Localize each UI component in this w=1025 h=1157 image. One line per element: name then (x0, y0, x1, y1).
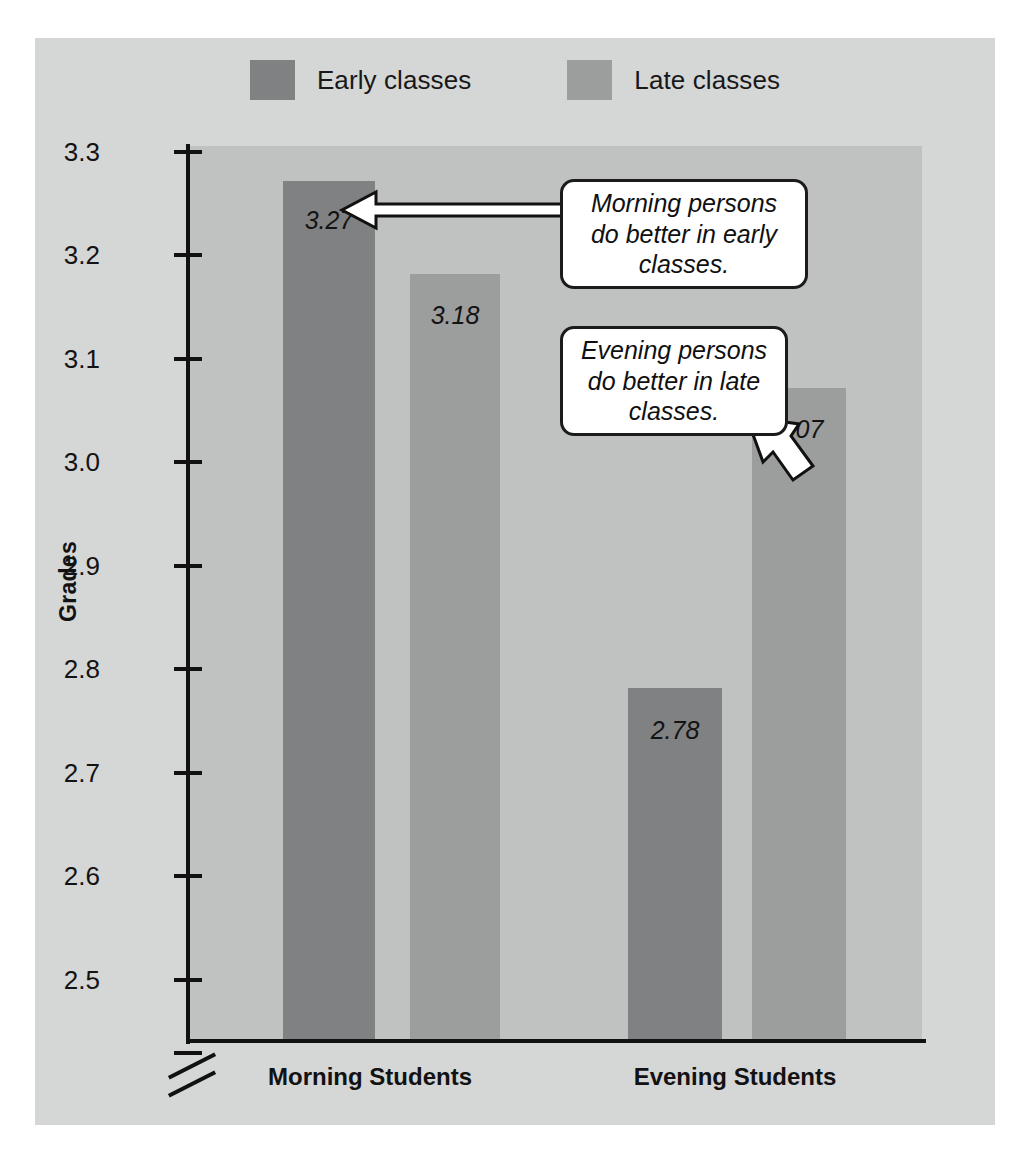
y-tick-label-2-5: 2.5 (64, 965, 100, 996)
bar-value-morning-early: 3.27 (283, 206, 375, 235)
legend-swatch-early-classes (250, 60, 295, 100)
legend-swatch-late-classes (567, 60, 612, 100)
chart-figure-panel: Early classes Late classes Grades 3.27 3… (35, 38, 995, 1125)
y-tick-label-3-2: 3.2 (64, 240, 100, 271)
y-tick-mark-3-1 (174, 357, 202, 361)
evening-callout-line-1: Evening persons (581, 335, 767, 366)
y-tick-label-3-3: 3.3 (64, 137, 100, 168)
y-tick-label-2-7: 2.7 (64, 758, 100, 789)
bar-morning-late[interactable]: 3.18 (410, 274, 500, 1041)
y-tick-mark-2-8 (174, 667, 202, 671)
legend-entry-late-classes[interactable]: Late classes (567, 60, 780, 100)
y-tick-mark-2-9 (174, 564, 202, 568)
legend-entry-early-classes[interactable]: Early classes (250, 60, 471, 100)
y-tick-label-2-9: 2.9 (64, 551, 100, 582)
bar-evening-late[interactable]: 3.07 (752, 388, 846, 1041)
legend-label-early-classes: Early classes (317, 65, 471, 96)
evening-callout-text: Evening persons do better in late classe… (581, 335, 767, 427)
morning-callout[interactable]: Morning persons do better in early class… (560, 179, 808, 289)
morning-callout-line-3: classes. (591, 249, 777, 280)
legend-label-late-classes: Late classes (634, 65, 780, 96)
y-tick-label-3-0: 3.0 (64, 447, 100, 478)
y-tick-mark-2-5 (174, 978, 202, 982)
y-tick-mark-2-6 (174, 874, 202, 878)
y-tick-label-3-1: 3.1 (64, 344, 100, 375)
plot-area: 3.27 3.18 2.78 3.07 (188, 146, 922, 1041)
y-tick-mark-3-0 (174, 460, 202, 464)
evening-callout-line-3: classes. (581, 396, 767, 427)
chart-legend: Early classes Late classes (35, 54, 995, 106)
y-tick-mark-2-7 (174, 771, 202, 775)
bar-value-morning-late: 3.18 (410, 301, 500, 330)
morning-callout-line-1: Morning persons (591, 188, 777, 219)
bar-morning-early[interactable]: 3.27 (283, 181, 375, 1041)
bar-evening-early[interactable]: 2.78 (628, 688, 722, 1041)
x-axis-line (186, 1039, 926, 1043)
y-tick-label-2-8: 2.8 (64, 654, 100, 685)
y-tick-label-2-6: 2.6 (64, 861, 100, 892)
evening-callout-line-2: do better in late (581, 366, 767, 397)
axis-break-icon (163, 1052, 219, 1098)
category-label-evening-students: Evening Students (605, 1063, 865, 1091)
bar-value-evening-early: 2.78 (628, 716, 722, 745)
category-label-morning-students: Morning Students (240, 1063, 500, 1091)
morning-callout-text: Morning persons do better in early class… (591, 188, 777, 280)
evening-callout[interactable]: Evening persons do better in late classe… (560, 326, 788, 436)
y-tick-mark-3-2 (174, 253, 202, 257)
morning-callout-line-2: do better in early (591, 219, 777, 250)
y-axis-line (186, 144, 190, 1044)
y-tick-mark-3-3 (174, 150, 202, 154)
